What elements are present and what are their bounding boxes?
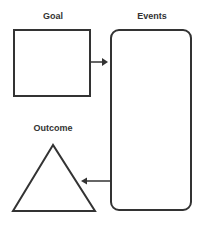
events-to-outcome-arrow	[81, 178, 111, 185]
goal-box	[14, 30, 90, 96]
events-box	[111, 30, 191, 210]
outcome-triangle	[13, 145, 95, 211]
goal-to-events-arrow	[91, 58, 108, 66]
diagram-canvas	[0, 0, 206, 226]
